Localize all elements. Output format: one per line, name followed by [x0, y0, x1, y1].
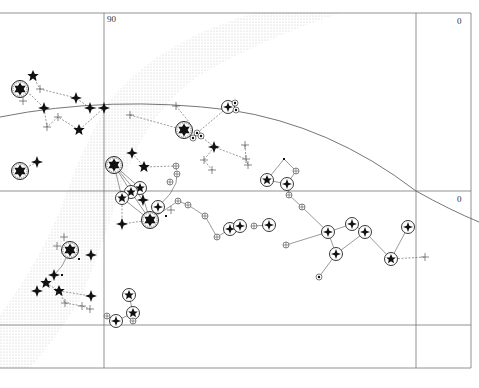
ra-label-90: 90 [107, 14, 116, 24]
dec-label-0: 0 [457, 194, 462, 204]
ra-label-0: 0 [457, 16, 462, 26]
star-chart [0, 0, 479, 388]
